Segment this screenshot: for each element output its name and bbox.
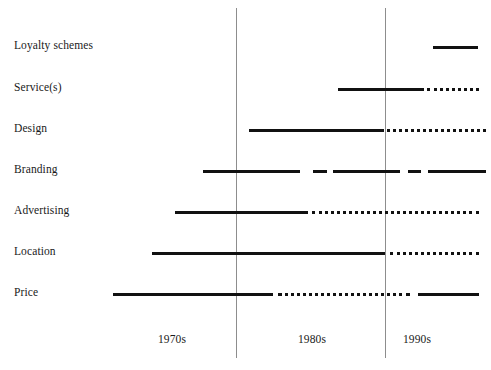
x-axis-tick-label-1990s: 1990s [387, 334, 447, 346]
timeline-segment [408, 170, 421, 173]
timeline-segment [390, 252, 479, 255]
timeline-segment [312, 211, 479, 214]
row-label-service-s: Service(s) [14, 82, 62, 94]
plot-area: Loyalty schemesService(s)DesignBrandingA… [0, 0, 491, 370]
timeline-segment [113, 293, 273, 296]
timeline-segment [333, 170, 400, 173]
timeline-segment [338, 88, 424, 91]
row-label-branding: Branding [14, 164, 58, 176]
row-label-loyalty-schemes: Loyalty schemes [14, 40, 93, 52]
timeline-segment [427, 88, 479, 91]
timeline-segment [152, 252, 385, 255]
timeline-segment [203, 170, 300, 173]
gridline-1 [236, 8, 237, 358]
timeline-segment [313, 170, 327, 173]
timeline-segment [249, 129, 384, 132]
row-label-price: Price [14, 287, 38, 299]
x-axis-tick-label-1970s: 1970s [142, 334, 202, 346]
timeline-segment [175, 211, 308, 214]
row-label-design: Design [14, 123, 47, 135]
timeline-segment [428, 170, 486, 173]
row-label-advertising: Advertising [14, 205, 69, 217]
timeline-segment [418, 293, 479, 296]
row-label-location: Location [14, 246, 56, 258]
timeline-segment [278, 293, 410, 296]
timeline-segment [433, 46, 478, 49]
timeline-segment [387, 129, 486, 132]
timeline-chart: Loyalty schemesService(s)DesignBrandingA… [0, 0, 491, 370]
gridline-2 [385, 8, 386, 358]
x-axis-tick-label-1980s: 1980s [282, 334, 342, 346]
